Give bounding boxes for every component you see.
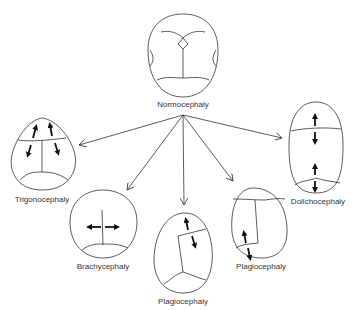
label-dolichocephaly: Dolichocephaly xyxy=(291,197,345,206)
trigonocephaly-skull xyxy=(11,118,75,190)
label-plagiocephaly-frontal: Plagiocephaly xyxy=(158,297,208,306)
dolichocephaly-skull xyxy=(289,102,343,193)
arrow-to-brachycephaly xyxy=(127,115,183,190)
plagiocephaly-frontal-skull xyxy=(154,213,212,293)
plagiocephaly-occipital-skull xyxy=(232,188,287,258)
arrow-to-trigonocephaly xyxy=(79,115,183,145)
label-plagiocephaly-occipital: Plagiocephaly xyxy=(236,262,286,271)
arrow-to-plagiocephaly-frontal xyxy=(183,115,184,205)
normocephaly-skull xyxy=(148,14,218,97)
label-brachycephaly: Brachycephaly xyxy=(77,262,129,271)
connector-arrows xyxy=(79,115,282,205)
brachycephaly-skull xyxy=(70,190,137,258)
skull-shapes-diagram xyxy=(0,0,357,310)
label-trigonocephaly: Trigonocephaly xyxy=(15,195,69,204)
label-normocephaly: Normocephaly xyxy=(157,100,209,109)
